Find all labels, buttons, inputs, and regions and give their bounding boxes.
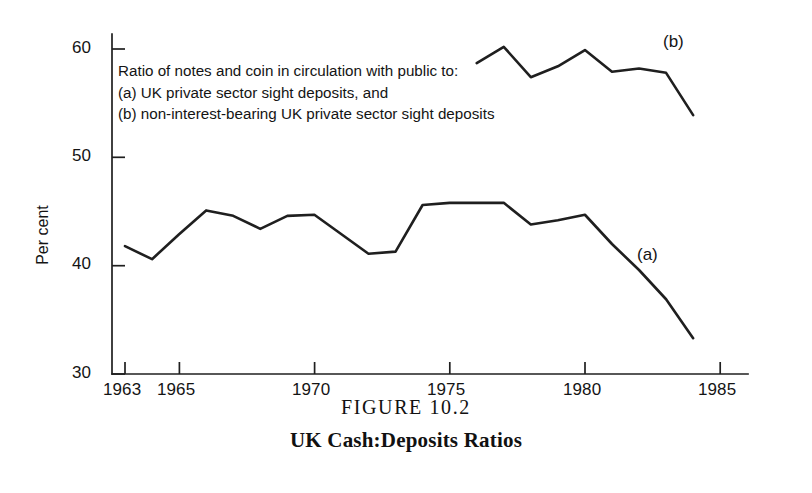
- annotation-line-2: (a) UK private sector sight deposits, an…: [118, 82, 495, 104]
- figure-number: FIGURE 10.2: [0, 396, 812, 419]
- y-tick-label-40: 40: [72, 254, 91, 274]
- chart-annotation: Ratio of notes and coin in circulation w…: [118, 60, 495, 125]
- y-tick-label-30: 30: [72, 363, 91, 383]
- y-tick-label-50: 50: [72, 146, 91, 166]
- series-a-line: [125, 203, 693, 338]
- figure-caption: FIGURE 10.2 UK Cash:Deposits Ratios: [0, 396, 812, 453]
- series-a-label: (a): [637, 245, 658, 265]
- annotation-line-3: (b) non-interest-bearing UK private sect…: [118, 103, 495, 125]
- y-tick-label-60: 60: [72, 38, 91, 58]
- series-b-label: (b): [663, 32, 684, 52]
- figure-title: UK Cash:Deposits Ratios: [0, 428, 812, 453]
- y-axis-title: Per cent: [34, 205, 51, 265]
- series-b-line: [477, 47, 693, 115]
- annotation-line-1: Ratio of notes and coin in circulation w…: [118, 60, 495, 82]
- figure-container: Per cent 60 50 40 30 1963 1965 1970 1975…: [0, 0, 812, 493]
- x-tick-marks: [125, 362, 720, 374]
